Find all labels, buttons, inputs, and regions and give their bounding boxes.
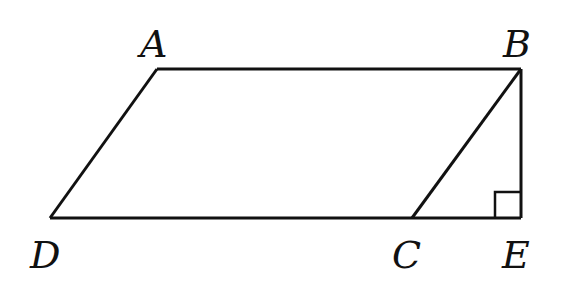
label-C: C (392, 233, 421, 277)
right-angle-marker (495, 192, 521, 218)
label-E: E (501, 233, 530, 277)
geometry-diagram: A B C D E (0, 0, 572, 286)
segment-BC (412, 69, 521, 218)
segment-DA (50, 69, 157, 218)
label-B: B (502, 22, 531, 66)
label-D: D (29, 233, 60, 277)
label-A: A (137, 22, 167, 66)
